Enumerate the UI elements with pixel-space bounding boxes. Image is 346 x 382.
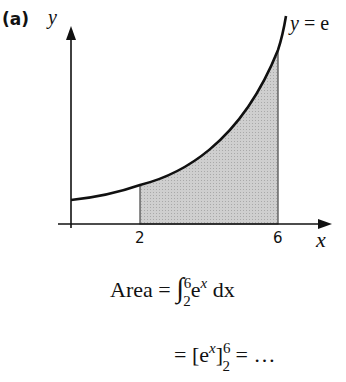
graph <box>0 0 346 382</box>
bracket-power: x <box>209 340 216 356</box>
bracket-upper: 6 <box>223 340 231 356</box>
curve-label: y = e <box>290 12 329 35</box>
y-axis-label: y <box>48 6 57 29</box>
upper-limit: 6 <box>184 275 192 291</box>
area-label: Area = <box>110 277 176 302</box>
part-label: (a) <box>2 9 29 29</box>
evaluation-equation: = [ex]62 = … <box>174 342 275 368</box>
bracket-lower: 2 <box>223 358 231 374</box>
shaded-area <box>140 50 278 224</box>
x-tick-2: 2 <box>135 229 145 247</box>
integrand: e <box>191 277 201 302</box>
integrand-power: x <box>201 275 208 291</box>
x-tick-6: 6 <box>273 229 283 247</box>
curve-label-rhs: = e <box>299 12 329 34</box>
bracket-open: = [e <box>174 342 209 367</box>
curve-label-y: y <box>290 12 299 34</box>
ellipsis: = … <box>230 342 275 367</box>
x-axis-label: x <box>316 227 326 253</box>
dx: dx <box>207 277 235 302</box>
y-axis-arrow <box>66 26 76 40</box>
area-equation: Area = ∫62ex dx <box>110 272 235 304</box>
lower-limit: 2 <box>183 293 191 309</box>
bracket-close: ] <box>216 342 223 367</box>
